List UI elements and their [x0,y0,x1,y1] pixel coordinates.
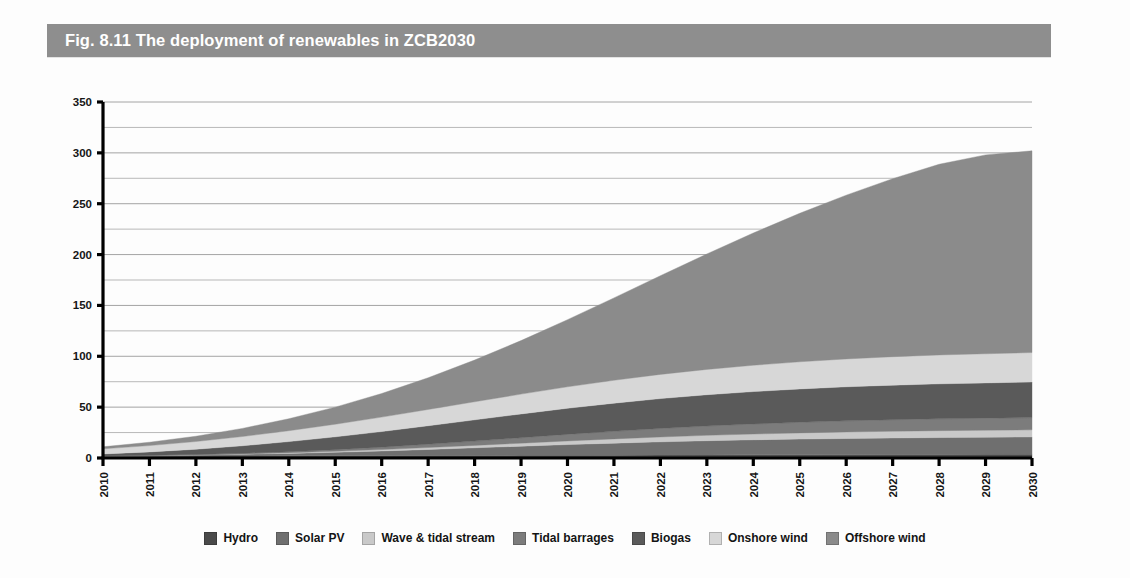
x-axis-tick-label: 2019 [516,472,528,498]
legend-label: Biogas [651,531,691,545]
x-axis-tick-label: 2030 [1027,472,1039,498]
legend-label: Wave & tidal stream [381,531,495,545]
legend-swatch-icon [709,532,722,545]
legend-item-biogas[interactable]: Biogas [632,531,691,545]
x-axis-tick-label: 2027 [887,472,899,498]
y-axis-tick-label: 50 [79,401,92,413]
x-axis-tick-label: 2026 [841,472,853,498]
x-axis-tick-label: 2023 [701,472,713,498]
legend-swatch-icon [632,532,645,545]
legend-item-hydro[interactable]: Hydro [204,531,258,545]
chart-plot-area: 050100150200250300350 201020112012201320… [0,0,1130,578]
legend-label: Hydro [223,531,258,545]
x-axis-tick-label: 2014 [283,471,295,497]
legend-item-wave-tidal-stream[interactable]: Wave & tidal stream [362,531,495,545]
x-axis-tick-label: 2018 [469,471,481,497]
legend-swatch-icon [276,532,289,545]
x-axis-tick-label: 2024 [748,471,760,497]
y-axis-tick-label: 350 [73,96,92,108]
y-axis-tick-label: 250 [73,198,92,210]
y-axis-tick-label: 300 [73,147,92,159]
legend-item-onshore-wind[interactable]: Onshore wind [709,531,808,545]
x-axis-tick-label: 2022 [655,472,667,498]
x-axis-tick-label: 2028 [934,471,946,497]
legend-label: Tidal barrages [532,531,614,545]
legend-swatch-icon [826,532,839,545]
x-axis-tick-label: 2013 [237,472,249,498]
y-axis-tick-label: 150 [73,299,92,311]
legend-swatch-icon [513,532,526,545]
legend-item-offshore-wind[interactable]: Offshore wind [826,531,926,545]
legend-item-solar-pv[interactable]: Solar PV [276,531,344,545]
legend-label: Solar PV [295,531,344,545]
x-axis-tick-label: 2020 [562,472,574,498]
stacked-area-chart: 050100150200250300350 201020112012201320… [0,0,1130,578]
x-axis-tick-label: 2011 [144,471,156,497]
x-axis-tick-label: 2010 [98,472,110,498]
x-axis-tick-label: 2025 [794,471,806,497]
chart-legend: HydroSolar PVWave & tidal streamTidal ba… [0,531,1130,545]
x-axis-tick-label: 2016 [376,472,388,498]
area-series-group [103,151,1032,458]
y-axis-tick-label: 0 [86,452,92,464]
x-axis-tick-label: 2017 [423,472,435,498]
y-axis-ticks-group: 050100150200250300350 [73,96,103,464]
x-axis-tick-label: 2021 [608,471,620,497]
legend-label: Offshore wind [845,531,926,545]
legend-item-tidal-barrages[interactable]: Tidal barrages [513,531,614,545]
x-axis-tick-label: 2015 [330,471,342,497]
y-axis-tick-label: 200 [73,249,92,261]
figure-container: Fig. 8.11 The deployment of renewables i… [0,0,1130,578]
legend-swatch-icon [362,532,375,545]
legend-label: Onshore wind [728,531,808,545]
legend-swatch-icon [204,532,217,545]
x-axis-ticks-group: 2010201120122013201420152016201720182019… [98,458,1039,498]
y-axis-tick-label: 100 [73,350,92,362]
x-axis-tick-label: 2029 [980,472,992,498]
x-axis-tick-label: 2012 [190,472,202,498]
